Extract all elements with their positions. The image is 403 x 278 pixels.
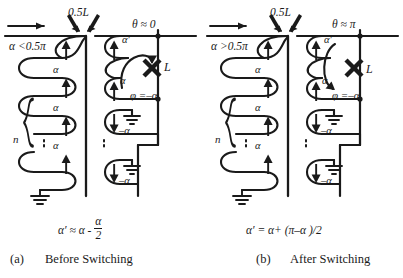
right-lower-loops <box>105 110 158 184</box>
theta-node-dot <box>155 33 160 38</box>
formula-a-numerator: α <box>94 216 102 229</box>
right-upper-arrows <box>312 41 321 102</box>
ground-symbol-left <box>31 190 49 204</box>
right-upper-loop-label-b-2: α <box>322 75 328 86</box>
input-condition-label-a: α <0.5π <box>9 40 46 52</box>
formula-a-denominator: 2 <box>94 229 102 241</box>
formula-b: α′ = α+ (π–α )/2 <box>246 224 322 236</box>
formula-a-eq: ≈ <box>69 224 75 236</box>
turns-label-b: n <box>215 133 221 145</box>
formula-a-lhs: α′ <box>58 224 67 236</box>
theta-label-a: θ ≈ 0 <box>132 18 155 30</box>
right-lower-arrows <box>312 114 321 183</box>
formula-a: α′ ≈ α - α 2 <box>58 216 102 241</box>
panel-after-switching: α >0.5π 0.5L θ ≈ π L φ =–α n α α α α′ α … <box>202 0 403 278</box>
half-l-label-b: 0.5L <box>270 6 291 18</box>
phi-label-a: φ =–α <box>130 89 158 101</box>
theta-node-dot <box>357 33 362 38</box>
left-coil-arrows <box>62 41 71 175</box>
right-lower-arrows <box>110 114 119 183</box>
ground-symbol-loop-1 <box>124 116 140 124</box>
half-l-arrow-right-icon <box>87 14 100 33</box>
formula-a-rhs: α - <box>79 224 92 236</box>
right-upper-loop-label-a-2: α <box>120 75 126 86</box>
turns-brace <box>226 99 235 146</box>
caption-index-b: (b) <box>256 252 271 267</box>
half-l-arrow-right-icon <box>289 14 302 33</box>
right-lower-loop-label-a-2: –α <box>119 175 130 186</box>
load-label-a: L <box>164 60 171 75</box>
phi-label-b: φ =–α <box>332 89 360 101</box>
caption-index-a: (a) <box>10 252 24 267</box>
caption-text-a: Before Switching <box>45 252 133 267</box>
curved-arrow-clockwise <box>121 55 157 88</box>
left-loop-label-a-4: α <box>53 140 59 151</box>
left-coil-loops <box>221 36 287 190</box>
panel-before-switching: α <0.5π 0.5L θ ≈ 0 L φ =–α n α α α α′ α … <box>0 0 201 278</box>
right-lower-loop-label-b-2: –α <box>321 175 332 186</box>
right-lower-loop-label-a-1: –α <box>119 125 130 136</box>
turns-brace <box>24 99 33 146</box>
feed-arrow-right-icon <box>8 23 44 30</box>
right-upper-loop-label-a-1: α′ <box>122 34 130 45</box>
theta-label-b: θ ≈ π <box>332 18 355 30</box>
feed-arrow-right-icon <box>210 23 246 30</box>
turns-label-a: n <box>13 133 19 145</box>
left-coil-loops <box>19 36 85 190</box>
half-l-label-a: 0.5L <box>68 6 89 18</box>
right-upper-arrows <box>110 41 119 102</box>
schematic-drawing-a <box>0 0 201 215</box>
left-loop-label-b-2: α <box>255 64 261 75</box>
load-label-b: L <box>366 62 373 77</box>
right-lower-loop-label-b-1: –α <box>321 125 332 136</box>
ground-symbol-left <box>233 190 251 204</box>
right-upper-loop-label-b-1: α′ <box>324 34 332 45</box>
left-loop-label-a-2: α <box>53 64 59 75</box>
ground-symbol-loop-1 <box>326 116 342 124</box>
caption-text-b: After Switching <box>290 252 370 267</box>
left-coil-arrows <box>264 41 273 175</box>
left-loop-label-b-4: α <box>255 140 261 151</box>
left-loop-label-a-3: α <box>53 102 59 113</box>
schematic-drawing-b <box>202 0 403 215</box>
input-condition-label-b: α >0.5π <box>211 40 248 52</box>
left-loop-label-b-3: α <box>255 102 261 113</box>
formula-a-fraction: α 2 <box>94 216 102 241</box>
right-lower-loops <box>307 110 360 184</box>
